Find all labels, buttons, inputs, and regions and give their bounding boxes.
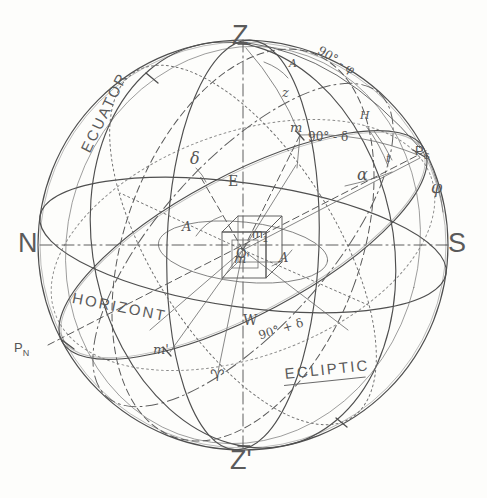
pole-north-letter: P <box>14 340 23 355</box>
label-east-point: E <box>228 174 238 188</box>
star-m1-letter: m <box>252 226 263 241</box>
label-hour-angle-t: t <box>386 153 390 164</box>
label-vernal-equinox: ♈ <box>210 368 224 384</box>
star-m1-subscript: 1 <box>263 234 268 244</box>
label-polar-distance-arc: 90° - δ <box>308 131 348 143</box>
pole-south-letter: P <box>415 143 424 158</box>
label-star-m-prime-horizon: m' <box>153 343 169 356</box>
label-star-m: m <box>290 121 302 134</box>
label-pole-south: PS <box>415 144 430 161</box>
label-azimuth-a-right: A <box>279 251 288 264</box>
label-azimuth-a-top: A <box>289 58 297 69</box>
label-nadir: Z' <box>230 447 252 474</box>
label-origin-observer: O <box>236 247 247 260</box>
label-west-point: W <box>243 313 257 327</box>
celestial-sphere-figure: .ln { fill:none; stroke:#4f4f4f; stroke-… <box>0 0 487 498</box>
label-pole-north: PN <box>14 341 29 358</box>
label-star-m1: m1 <box>252 227 268 244</box>
label-zenith-distance: z <box>282 86 289 99</box>
pole-south-subscript: S <box>424 151 430 161</box>
pole-north-subscript: N <box>23 348 30 358</box>
label-azimuth-a-left: A <box>182 220 191 233</box>
label-north-point: N <box>18 230 38 257</box>
label-south-point: S <box>448 230 466 257</box>
label-zenith: Z <box>232 22 249 49</box>
label-right-ascension: α <box>357 167 368 183</box>
label-latitude-phi: φ <box>431 180 442 196</box>
label-declination: δ <box>190 151 200 167</box>
label-hour-angle-h: H <box>360 110 370 121</box>
